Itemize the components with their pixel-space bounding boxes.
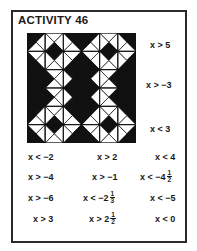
answer-text: x > −4 (28, 172, 54, 182)
answer-cell: x < 0 (155, 214, 175, 224)
fraction-denominator: 2 (168, 177, 172, 183)
answer-text: x < −4 (140, 172, 166, 182)
triangle-pattern-graphic (27, 33, 136, 143)
answer-cell: x < −412 (140, 170, 172, 183)
fraction-denominator: 2 (111, 219, 115, 225)
fraction: 12 (110, 212, 116, 225)
answer-text: x < 0 (155, 214, 175, 224)
side-label-1: x > 5 (150, 40, 170, 50)
side-label-3: x < 3 (150, 124, 170, 134)
answer-cell: x > −6 (28, 193, 54, 203)
answer-text: x < −2 (83, 193, 109, 203)
pattern-grid (27, 33, 136, 143)
answer-cell: x > −1 (92, 172, 118, 182)
fraction: 12 (167, 170, 173, 183)
fraction-denominator: 3 (111, 198, 115, 204)
answer-text: x > 2 (97, 152, 117, 162)
activity-title: ACTIVITY 46 (18, 14, 88, 26)
answer-text: x < −2 (28, 152, 54, 162)
answer-cell: x < −213 (83, 191, 115, 204)
answer-text: x > −6 (28, 193, 54, 203)
answer-cell: x > 3 (33, 214, 53, 224)
answer-cell: x < −5 (150, 193, 176, 203)
side-label-2: x > −3 (146, 80, 172, 90)
answer-cell: x > 212 (89, 212, 116, 225)
answer-text: x > 2 (89, 214, 109, 224)
answer-cell: x > 2 (97, 152, 117, 162)
answer-cell: x < −2 (28, 152, 54, 162)
answer-cell: x < 4 (155, 152, 175, 162)
answer-text: x > −1 (92, 172, 118, 182)
fraction: 13 (110, 191, 116, 204)
answer-text: x < 4 (155, 152, 175, 162)
answer-text: x > 3 (33, 214, 53, 224)
answer-cell: x > −4 (28, 172, 54, 182)
answer-text: x < −5 (150, 193, 176, 203)
